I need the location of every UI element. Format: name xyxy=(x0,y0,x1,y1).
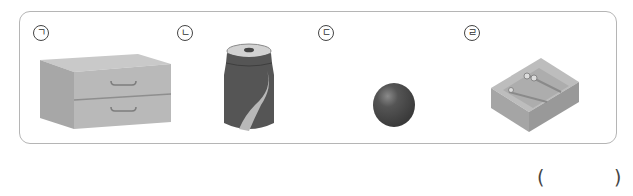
pencil-tray-icon xyxy=(489,56,581,134)
option-marker-rieul: ㄹ xyxy=(464,25,480,41)
answer-paren-close: ) xyxy=(614,166,621,188)
answer-blank[interactable] xyxy=(552,166,610,190)
soda-can-icon xyxy=(221,43,277,133)
answer-paren-open: ( xyxy=(537,166,544,188)
drawer-cabinet-icon xyxy=(38,50,174,132)
option-marker-digeut: ㄷ xyxy=(318,25,334,41)
option-marker-nieun: ㄴ xyxy=(177,25,193,41)
ball-icon xyxy=(372,82,416,128)
option-marker-giyeok: ㄱ xyxy=(33,25,49,41)
